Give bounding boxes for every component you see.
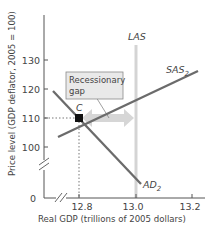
y-tick-label-130: 130 <box>22 55 40 66</box>
y-tick-label-100: 100 <box>22 142 40 153</box>
y-tick-label-120: 120 <box>22 84 40 95</box>
equilibrium-point-c <box>75 114 83 122</box>
ad2-label-main: AD <box>142 179 157 190</box>
ad2-label: AD2 <box>142 179 162 193</box>
recessionary-gap-arrow <box>82 109 134 127</box>
chart-svg: LAS Recessionary gap SAS2 AD2 C 130 120 <box>0 0 213 232</box>
y-ticks <box>44 60 48 147</box>
x-ticks <box>79 194 192 198</box>
origin-label: 0 <box>30 193 36 204</box>
x-tick-label-12-8: 12.8 <box>71 201 92 212</box>
sas2-label: SAS2 <box>166 64 190 78</box>
x-axis-title: Real GDP (trillions of 2005 dollars) <box>38 214 186 224</box>
callout-text-line1: Recessionary <box>69 75 125 85</box>
chart-container: LAS Recessionary gap SAS2 AD2 C 130 120 <box>0 0 213 232</box>
las-label: LAS <box>128 31 146 42</box>
x-tick-label-13-2: 13.2 <box>179 201 200 212</box>
point-c-label: C <box>76 102 83 113</box>
sas2-label-main: SAS <box>166 64 185 75</box>
x-axis-break-icon <box>55 193 67 202</box>
x-tick-label-13-0: 13.0 <box>122 201 143 212</box>
y-axis-title: Price level (GDP deflator, 2005 = 100) <box>7 11 17 176</box>
y-tick-label-110: 110 <box>22 113 40 124</box>
callout-text-line2: gap <box>69 86 85 96</box>
ad2-label-sub: 2 <box>157 185 162 193</box>
sas2-label-sub: 2 <box>185 70 190 78</box>
